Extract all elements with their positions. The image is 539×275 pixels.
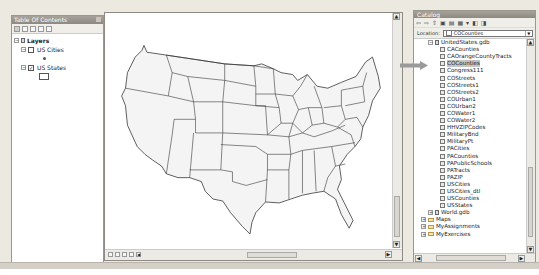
line-feature-class-icon [440,83,445,88]
list-by-drawing-order-icon[interactable] [14,26,20,32]
point-symbol-icon[interactable] [43,57,46,60]
layer-visibility-checkbox[interactable]: ✓ [28,65,34,71]
dropdown-arrow-icon[interactable]: ▼ [525,31,532,36]
tree-item[interactable]: MilitaryPt [414,138,525,145]
tree-item[interactable]: Congress111 [414,67,525,74]
collapse-icon[interactable]: − [14,38,19,43]
tree-item[interactable]: MilitaryBnd [414,131,525,138]
layer-label: US Cities [37,46,64,53]
expand-icon[interactable]: + [428,210,433,215]
tree-item[interactable]: USCities_dtl [414,188,525,195]
folder-icon [428,218,434,222]
tree-item[interactable]: PACounties [414,153,525,160]
tree-item[interactable]: PAZIP [414,174,525,181]
tree-item[interactable]: COUrban2 [414,103,525,110]
layer-visibility-checkbox[interactable] [28,47,34,53]
toggle-contents-icon[interactable]: ▦ [457,20,463,26]
tree-item-selected[interactable]: COCounties [414,60,525,67]
tree-item-unitedstates-gdb[interactable]: − UnitedStates.gdb [414,39,525,46]
feature-class-icon [440,154,445,159]
layer-us-cities[interactable]: − US Cities [12,45,103,54]
tree-item[interactable]: PATracts [414,167,525,174]
launch-arccatalog-icon[interactable]: ◧ [472,20,478,26]
toc-title-bar: Table Of Contents [12,16,103,24]
tree-item[interactable]: USStates [414,202,525,209]
polygon-symbol-icon[interactable] [39,73,49,80]
pause-drawing-icon[interactable] [129,252,134,257]
tree-item[interactable]: USCities [414,181,525,188]
tree-item-myexercises-folder[interactable]: + MyExercises [414,231,525,238]
feature-class-icon [440,97,445,102]
catalog-vertical-scrollbar[interactable]: ▲ ▼ [526,39,535,253]
map-vertical-scrollbar[interactable]: ▲ ▼ [392,13,402,248]
expand-icon[interactable]: + [421,217,426,222]
scroll-down-arrow-icon[interactable]: ▼ [393,241,400,248]
map-canvas[interactable] [108,14,390,246]
feature-class-icon [440,47,445,52]
tree-item[interactable]: COWater1 [414,110,525,117]
line-feature-class-icon [440,90,445,95]
list-by-selection-icon[interactable] [38,26,44,32]
expand-icon[interactable]: + [421,224,426,229]
tree-item[interactable]: HHVZIPCodes [414,124,525,131]
tree-item-maps-folder[interactable]: + Maps [414,216,525,223]
tree-item-world-gdb[interactable]: + World.gdb [414,209,525,216]
collapse-icon[interactable]: − [428,40,433,45]
tree-item[interactable]: PAPublicSchools [414,160,525,167]
catalog-vertical-scroll-thumb[interactable] [528,167,533,237]
auto-hide-pin-icon[interactable] [96,17,101,22]
layer-us-states[interactable]: − ✓ US States [12,63,103,72]
refresh-icon[interactable] [122,252,127,257]
collapse-icon[interactable]: − [21,65,26,70]
tree-item[interactable]: COStreets1 [414,82,525,89]
tree-item[interactable]: CAOrangeCountyTracts [414,53,525,60]
tree-item[interactable]: COStreets2 [414,89,525,96]
location-bar: Location: COCounties ▼ [414,28,535,39]
feature-class-icon [440,125,445,130]
collapse-icon[interactable]: − [21,47,26,52]
search-window-icon[interactable]: ◨ [481,20,487,26]
folder-icon [428,232,434,236]
scroll-left-arrow-icon[interactable]: ◀ [136,252,141,257]
scroll-up-arrow-icon[interactable]: ▲ [393,13,400,20]
list-by-source-icon[interactable] [22,26,28,32]
map-vertical-scroll-thumb[interactable] [394,196,400,237]
tree-item[interactable]: PACities [414,145,525,152]
catalog-horizontal-scroll-thumb[interactable] [436,255,506,261]
catalog-toolbar: ⇦ ⇨ ⇧ ▣ ▤ ▦ ▾ ◧ ◨ [414,18,535,28]
tree-item[interactable]: USCounties [414,195,525,202]
folder-icon [428,225,434,229]
view-options-icon[interactable]: ▾ [466,20,469,26]
toc-title: Table Of Contents [14,16,67,23]
tree-item[interactable]: COWater2 [414,117,525,124]
scroll-left-arrow-icon[interactable]: ◀ [415,255,422,262]
map-horizontal-scroll-thumb[interactable] [247,252,297,258]
forward-icon[interactable]: ⇨ [424,20,429,26]
back-icon[interactable]: ⇦ [416,20,421,26]
scroll-right-arrow-icon[interactable]: ▶ [385,251,392,258]
tree-item-myassignments-folder[interactable]: + MyAssignments [414,223,525,230]
tree-item[interactable]: COUrban1 [414,96,525,103]
tree-item[interactable]: COStreets [414,74,525,81]
feature-class-icon [440,68,445,73]
scroll-up-arrow-icon[interactable]: ▲ [527,39,534,46]
layers-frame-icon [21,38,25,43]
layout-view-icon[interactable] [115,252,120,257]
point-feature-class-icon [440,189,445,194]
disconnect-folder-icon[interactable]: ▤ [449,20,455,26]
tree-item[interactable]: CACounties [414,46,525,53]
line-feature-class-icon [440,76,445,81]
map-bottom-bar: ◀ ▶ [105,249,402,260]
expand-icon[interactable]: + [421,232,426,237]
scroll-down-arrow-icon[interactable]: ▼ [527,246,534,253]
scroll-right-arrow-icon[interactable]: ▶ [518,255,525,262]
feature-class-icon [440,54,445,59]
up-one-level-icon[interactable]: ⇧ [432,20,437,26]
location-dropdown[interactable]: COCounties ▼ [443,30,533,37]
layers-root[interactable]: − Layers [12,36,103,45]
options-icon[interactable] [46,26,52,32]
list-by-visibility-icon[interactable] [30,26,36,32]
data-view-icon[interactable] [108,252,113,257]
point-feature-class-icon [440,182,445,187]
connect-folder-icon[interactable]: ▣ [440,20,446,26]
